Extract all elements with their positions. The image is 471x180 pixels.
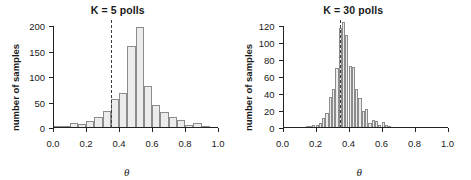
y-tick-label: 150: [45, 46, 61, 57]
panel-k30: K = 30 polls number of samples 0.00.20.4…: [236, 0, 471, 180]
y-tick-label: 100: [275, 38, 291, 49]
histogram-bar: [119, 93, 127, 128]
x-tick-label: 0.8: [408, 138, 421, 149]
histogram-bar: [103, 111, 111, 128]
x-tick: [316, 128, 317, 132]
x-axis-line-k5: [53, 127, 218, 128]
panel-k5: K = 5 polls number of samples 0.00.20.40…: [0, 0, 236, 180]
true-value-dashed-line: [111, 20, 112, 128]
x-tick-label: 0.6: [145, 138, 158, 149]
x-axis-label-k30: θ: [248, 166, 471, 178]
x-tick-label: 0.2: [79, 138, 92, 149]
plot-area-k30: 0.00.20.40.60.81.0020406080100120: [283, 26, 448, 128]
histogram-bar: [152, 105, 160, 128]
y-tick-label: 80: [275, 55, 286, 66]
y-tick-label: 200: [45, 21, 61, 32]
histogram-bar: [144, 86, 152, 128]
x-tick-label: 0.0: [276, 138, 289, 149]
figure-two-histograms: K = 5 polls number of samples 0.00.20.40…: [0, 0, 471, 180]
x-tick-label: 1.0: [211, 138, 224, 149]
y-tick-label: 60: [275, 72, 286, 83]
x-tick: [53, 128, 54, 132]
x-tick: [218, 128, 219, 132]
x-tick-label: 0.4: [342, 138, 355, 149]
x-tick-label: 0.8: [178, 138, 191, 149]
histogram-bar: [111, 99, 119, 128]
x-tick-label: 0.2: [309, 138, 322, 149]
histogram-bars-k5: [53, 26, 218, 128]
histogram-bar: [136, 27, 144, 128]
x-tick: [382, 128, 383, 132]
x-tick: [86, 128, 87, 132]
histogram-bar: [127, 46, 135, 128]
y-tick-label: 120: [275, 21, 291, 32]
y-tick-label: 0: [275, 123, 280, 134]
y-tick-label: 100: [45, 72, 61, 83]
x-tick-label: 1.0: [441, 138, 454, 149]
y-tick-label: 0: [45, 123, 50, 134]
true-value-dashed-line: [340, 20, 341, 128]
x-tick: [283, 128, 284, 132]
histogram-bars-k30: [283, 26, 448, 128]
histogram-bar: [160, 112, 168, 128]
y-axis-label-k30: number of samples: [243, 44, 254, 131]
x-tick: [415, 128, 416, 132]
x-tick: [119, 128, 120, 132]
x-tick: [349, 128, 350, 132]
y-tick-label: 50: [45, 97, 56, 108]
x-tick: [185, 128, 186, 132]
x-axis-line-k30: [283, 127, 448, 128]
plot-area-k5: 0.00.20.40.60.81.0050100150200: [53, 26, 218, 128]
x-tick: [152, 128, 153, 132]
panel-title-k5: K = 5 polls: [0, 4, 236, 16]
y-tick-label: 20: [275, 106, 286, 117]
x-axis-label-k5: θ: [18, 166, 236, 178]
x-tick: [448, 128, 449, 132]
y-axis-label-k5: number of samples: [10, 44, 21, 131]
x-tick-label: 0.4: [112, 138, 125, 149]
x-tick-label: 0.0: [46, 138, 59, 149]
panel-title-k30: K = 30 polls: [236, 4, 471, 16]
x-tick-label: 0.6: [375, 138, 388, 149]
y-tick-label: 40: [275, 89, 286, 100]
